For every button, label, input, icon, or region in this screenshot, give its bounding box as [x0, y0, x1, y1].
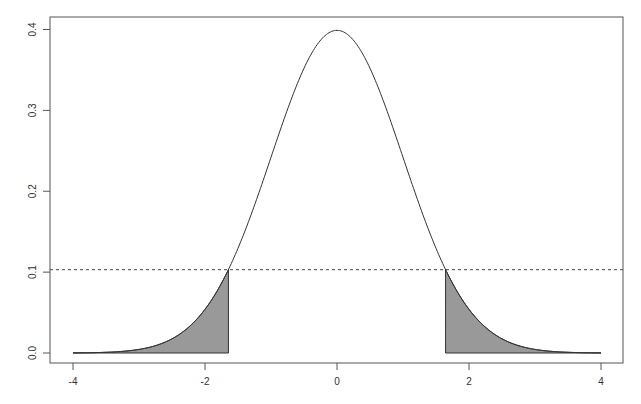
shaded-tail-regions — [73, 270, 601, 353]
x-axis: -4-2024 — [69, 363, 605, 387]
shaded-tail — [446, 270, 601, 353]
x-tick-label: -2 — [201, 376, 210, 387]
y-tick-label: 0.4 — [27, 22, 38, 36]
x-tick-label: 4 — [598, 376, 604, 387]
x-tick-label: 2 — [466, 376, 472, 387]
x-tick-label: 0 — [334, 376, 340, 387]
y-tick-label: 0.2 — [27, 184, 38, 198]
x-tick-label: -4 — [69, 376, 78, 387]
y-tick-label: 0.0 — [27, 346, 38, 360]
y-axis: 0.00.10.20.30.4 — [27, 22, 50, 360]
shaded-tail — [73, 270, 228, 353]
y-tick-label: 0.1 — [27, 265, 38, 279]
y-tick-label: 0.3 — [27, 103, 38, 117]
density-curve — [73, 30, 601, 353]
normal-density-chart: -4-2024 0.00.10.20.30.4 — [0, 0, 641, 404]
plot-frame — [50, 17, 623, 363]
